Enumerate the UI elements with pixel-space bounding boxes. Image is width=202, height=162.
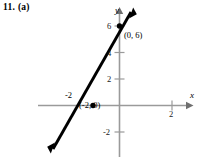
y-tick-label-4: 4 bbox=[107, 49, 111, 58]
coordinate-plot bbox=[0, 0, 202, 162]
y-tick-label-6: 6 bbox=[107, 22, 111, 31]
x-axis-label: x bbox=[190, 91, 194, 100]
point-marker-y-intercept bbox=[117, 23, 122, 28]
y-tick-label-2: 2 bbox=[107, 75, 111, 84]
x-intercept-annotation: (-2, 0) bbox=[79, 101, 100, 110]
y-axis-label: y bbox=[115, 6, 119, 15]
figure-container: 11.(a) bbox=[0, 0, 202, 162]
x-intercept-tick-note: -2 bbox=[65, 91, 72, 100]
x-axis-arrowhead bbox=[186, 102, 194, 109]
y-tick-label-minus-2: -2 bbox=[103, 128, 110, 137]
y-intercept-annotation: (0, 6) bbox=[124, 31, 142, 40]
x-tick-label-2: 2 bbox=[169, 110, 173, 119]
